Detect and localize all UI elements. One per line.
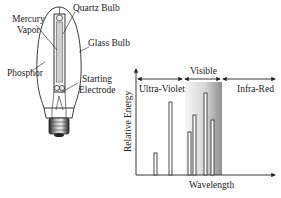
y-axis-label: Relative Energy xyxy=(123,90,133,152)
bulb-neck xyxy=(44,108,74,118)
emission-line xyxy=(204,93,207,175)
label-electrode: Electrode xyxy=(79,85,115,95)
region-label-ir: Infra-Red xyxy=(237,84,274,94)
emission-line xyxy=(154,153,157,175)
emission-line xyxy=(211,120,214,175)
label-glass-bulb: Glass Bulb xyxy=(88,38,130,48)
emission-line xyxy=(188,132,191,175)
emission-line xyxy=(169,102,172,175)
region-label-visible: Visible xyxy=(190,66,217,76)
emission-line xyxy=(193,115,196,175)
label-vapor: Vapor xyxy=(17,25,41,35)
diagram-canvas: Quartz Bulb Mercury Vapor Glass Bulb Pho… xyxy=(0,0,281,198)
mercury-lamp-illustration: Quartz Bulb Mercury Vapor Glass Bulb Pho… xyxy=(7,3,130,137)
spectrum-chart: Ultra-Violet Visible Infra-Red Relative … xyxy=(123,66,275,190)
emission-lines xyxy=(154,93,214,175)
base-contact xyxy=(54,133,64,137)
label-quartz-bulb: Quartz Bulb xyxy=(73,3,120,13)
label-starting: Starting xyxy=(82,74,112,84)
x-axis-label: Wavelength xyxy=(189,180,234,190)
region-label-uv: Ultra-Violet xyxy=(139,84,185,94)
label-mercury: Mercury xyxy=(12,14,45,24)
label-phosphor: Phosphor xyxy=(7,68,44,78)
